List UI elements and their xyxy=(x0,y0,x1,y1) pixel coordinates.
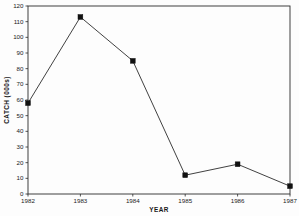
chart-figure: 0102030405060708090100110120 19821983198… xyxy=(0,0,299,216)
y-tick-label: 20 xyxy=(17,159,24,166)
y-tick-label: 50 xyxy=(17,112,24,119)
y-tick-label: 70 xyxy=(17,80,24,87)
y-tick-label: 10 xyxy=(17,174,24,181)
data-point-marker xyxy=(130,58,135,63)
y-tick-label: 120 xyxy=(13,2,24,9)
y-tick-label: 90 xyxy=(17,49,24,56)
x-axis-ticks: 198219831984198519861987 xyxy=(21,194,297,204)
data-point-marker xyxy=(78,15,83,20)
x-tick-label: 1984 xyxy=(126,197,140,204)
x-tick-label: 1982 xyxy=(21,197,35,204)
data-point-marker xyxy=(288,184,293,189)
plot-frame xyxy=(28,6,290,194)
x-axis-title: YEAR xyxy=(149,206,169,213)
data-point-marker xyxy=(235,162,240,167)
y-axis-ticks: 0102030405060708090100110120 xyxy=(13,2,28,197)
catch-by-year-line-chart: 0102030405060708090100110120 19821983198… xyxy=(0,0,299,216)
data-point-marker xyxy=(26,101,31,106)
y-tick-label: 110 xyxy=(14,18,24,25)
x-tick-label: 1985 xyxy=(178,197,192,204)
x-tick-label: 1983 xyxy=(74,197,88,204)
y-tick-label: 30 xyxy=(17,143,24,150)
y-tick-label: 80 xyxy=(17,65,24,72)
y-tick-label: 100 xyxy=(13,33,24,40)
y-axis-title: CATCH (000s) xyxy=(3,76,11,124)
y-tick-label: 40 xyxy=(17,127,24,134)
x-tick-label: 1986 xyxy=(231,197,245,204)
series-line-catch xyxy=(28,17,290,186)
x-tick-label: 1987 xyxy=(283,197,297,204)
data-point-marker xyxy=(183,173,188,178)
y-tick-label: 60 xyxy=(17,96,24,103)
